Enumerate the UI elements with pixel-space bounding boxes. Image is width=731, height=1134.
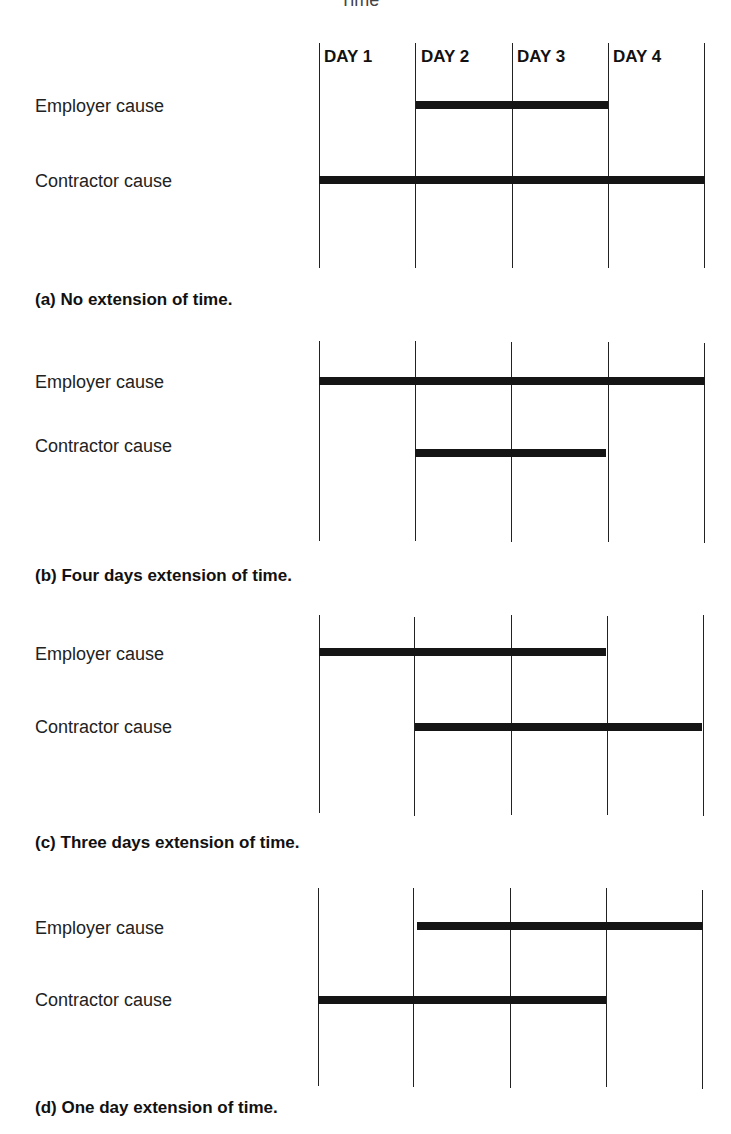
day-header-2: DAY 2 [421,48,469,65]
panel-caption: (a) No extension of time. [35,291,232,308]
grid-line [511,615,512,815]
grid-line [415,341,416,541]
contractor-delay-bar [415,449,606,457]
grid-line [703,615,704,816]
grid-line [704,343,705,543]
grid-line [414,617,415,816]
grid-line [510,888,511,1088]
day-header-4: DAY 4 [613,48,661,65]
employer-delay-bar [319,377,705,385]
employer-cause-label: Employer cause [35,645,164,663]
grid-line [319,43,320,268]
grid-line [608,342,609,542]
employer-cause-label: Employer cause [35,919,164,937]
contractor-cause-label: Contractor cause [35,718,172,736]
grid-line [704,43,705,268]
panel-caption: (b) Four days extension of time. [35,567,292,584]
contractor-delay-bar [319,176,705,184]
contractor-cause-label: Contractor cause [35,172,172,190]
grid-line [512,43,513,268]
panel-caption: (d) One day extension of time. [35,1099,278,1116]
day-header-3: DAY 3 [517,48,565,65]
contractor-delay-bar [415,723,702,731]
panel-caption: (c) Three days extension of time. [35,834,300,851]
grid-line [608,43,609,268]
grid-line [702,890,703,1089]
contractor-delay-bar [318,996,606,1004]
grid-line [413,888,414,1087]
grid-line [607,616,608,815]
cut-off-title: Time [340,0,379,11]
grid-line [319,341,320,541]
grid-line [415,43,416,268]
employer-delay-bar [319,648,606,656]
contractor-cause-label: Contractor cause [35,437,172,455]
grid-line [318,888,319,1086]
employer-delay-bar [417,922,703,930]
grid-line [319,615,320,813]
employer-cause-label: Employer cause [35,373,164,391]
grid-line [511,342,512,542]
employer-cause-label: Employer cause [35,97,164,115]
employer-delay-bar [416,101,608,109]
grid-line [606,888,607,1087]
day-header-1: DAY 1 [324,48,372,65]
contractor-cause-label: Contractor cause [35,991,172,1009]
